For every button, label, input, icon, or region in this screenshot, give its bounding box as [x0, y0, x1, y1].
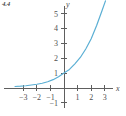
y-tick-label: 4 — [54, 24, 58, 33]
y-tick-label: 1 — [54, 69, 58, 78]
y-tick-label: 3 — [54, 39, 58, 48]
x-tick-label: 3 — [103, 93, 107, 102]
x-tick-label: −3 — [19, 93, 28, 102]
x-tick-label: 2 — [89, 93, 93, 102]
figure-container: 4.4 −3−2−1123 −112345 x y — [0, 0, 126, 116]
y-tick-label: 5 — [54, 10, 58, 19]
y-axis-label: y — [65, 0, 70, 9]
y-tick-label: 2 — [54, 54, 58, 63]
coordinate-plot: −3−2−1123 −112345 x y — [0, 0, 126, 116]
x-tick-label: −2 — [33, 93, 42, 102]
exponential-curve — [15, 1, 105, 87]
y-tick-label: −1 — [49, 99, 58, 108]
x-tick-label: 1 — [76, 93, 80, 102]
x-axis-tick-labels: −3−2−1123 — [19, 93, 107, 102]
x-axis-label: x — [115, 84, 120, 93]
